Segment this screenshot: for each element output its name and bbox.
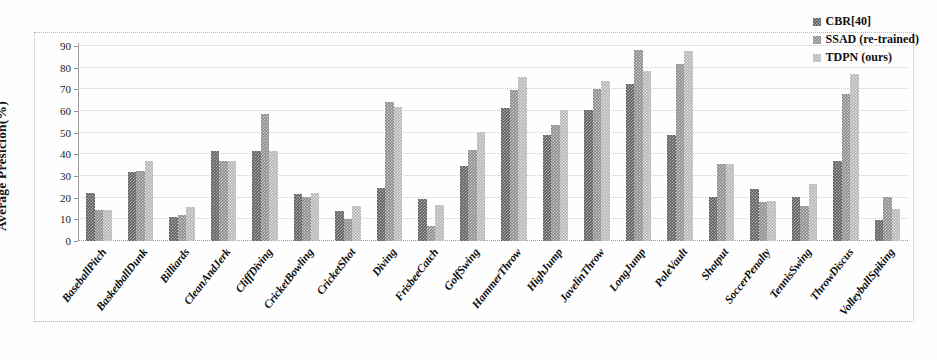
bar[interactable] [684,51,693,241]
bar[interactable] [427,226,436,241]
bar[interactable] [767,201,776,241]
legend-label: CBR[40] [826,14,871,29]
bar[interactable] [169,217,178,241]
chart-legend: CBR[40]SSAD (re-trained)TDPN (ours) [813,14,919,65]
y-tick-label-0: 0 [66,235,72,247]
bar[interactable] [261,114,270,241]
bar[interactable] [560,110,569,241]
bar[interactable] [850,74,859,241]
x-label-slot: CleanAndJerk [203,244,245,354]
bar-group [659,46,701,241]
bar[interactable] [634,50,643,241]
bar[interactable] [750,189,759,241]
bar[interactable] [344,219,353,241]
bar[interactable] [883,197,892,241]
bar[interactable] [800,206,809,241]
bar[interactable] [377,188,386,241]
bar[interactable] [394,107,403,241]
bar[interactable] [294,194,303,241]
bar-group [203,46,245,241]
y-tick-label-40: 40 [60,148,71,160]
bar-group [286,46,328,241]
bar[interactable] [460,166,469,241]
legend-swatch-icon [813,18,821,26]
bar[interactable] [252,151,261,241]
bar[interactable] [593,89,602,241]
bar[interactable] [86,193,95,241]
y-tick-label-30: 30 [60,170,71,182]
bar[interactable] [626,84,635,241]
y-axis-title: Average Presicion(%) [0,66,10,266]
bar[interactable] [95,210,104,241]
bar[interactable] [136,171,145,241]
bar[interactable] [709,197,718,241]
bar[interactable] [792,197,801,241]
legend-item[interactable]: TDPN (ours) [813,50,892,65]
bar[interactable] [145,161,154,241]
bar[interactable] [518,77,527,241]
x-axis-tick-label: Shotput [699,246,731,282]
bar-group [327,46,369,241]
bar-group [701,46,743,241]
bar[interactable] [875,220,884,241]
x-axis-tick-label: Diving [370,246,399,278]
bar-groups [78,46,908,241]
bar[interactable] [477,132,486,241]
bar[interactable] [833,161,842,241]
bar-group [244,46,286,241]
x-axis-labels: BaseballPitchBasketballDunkBilliardsClea… [78,244,908,354]
bar-group [535,46,577,241]
y-tick-label-60: 60 [60,105,71,117]
bar[interactable] [352,206,361,241]
bar-group [618,46,660,241]
bar[interactable] [269,151,278,241]
bar[interactable] [892,209,901,241]
bar[interactable] [601,81,610,241]
bar[interactable] [178,215,187,241]
bar[interactable] [103,210,112,241]
legend-label: SSAD (re-trained) [826,32,919,47]
x-label-slot: PoleVault [659,244,701,354]
x-label-slot: BasketballDunk [120,244,162,354]
x-label-slot: CricketShot [327,244,369,354]
bar[interactable] [128,172,137,241]
x-axis-tick-label: Billiards [157,246,191,285]
bar[interactable] [726,164,735,241]
bar[interactable] [643,71,652,241]
bar-group [867,46,909,241]
bar[interactable] [418,199,427,241]
bar[interactable] [219,161,228,241]
y-tick-label-20: 20 [60,192,71,204]
bar[interactable] [435,205,444,241]
bar[interactable] [543,135,552,241]
bar[interactable] [551,125,560,241]
bar-group [78,46,120,241]
y-tick-label-70: 70 [60,83,71,95]
bar[interactable] [510,90,519,241]
bar[interactable] [584,110,593,241]
bar[interactable] [676,64,685,241]
bar[interactable] [667,135,676,241]
x-label-slot: JavelinThrow [576,244,618,354]
bar[interactable] [211,151,220,241]
bar-group [161,46,203,241]
bar[interactable] [717,164,726,241]
x-label-slot: HammerThrow [493,244,535,354]
bar[interactable] [228,161,237,241]
plot-area: 0102030405060708090 [78,46,908,241]
x-label-slot: VolleyballSpiking [867,244,909,354]
legend-item[interactable]: SSAD (re-trained) [813,32,919,47]
bar[interactable] [186,207,195,241]
bar[interactable] [302,197,311,241]
bar[interactable] [809,184,818,241]
bar[interactable] [468,150,477,241]
bar[interactable] [335,211,344,241]
bar[interactable] [501,108,510,241]
legend-item[interactable]: CBR[40] [813,14,871,29]
bar[interactable] [759,202,768,241]
bar[interactable] [311,193,320,241]
bar-group [369,46,411,241]
bar[interactable] [842,94,851,241]
bar[interactable] [385,102,394,241]
y-tick-label-90: 90 [60,40,71,52]
